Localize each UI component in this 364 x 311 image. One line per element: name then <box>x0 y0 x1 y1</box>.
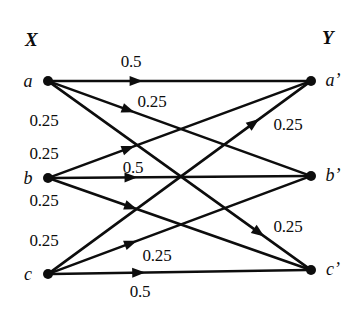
graph-node-cp[interactable] <box>306 265 316 275</box>
edge-arrowhead-icon <box>121 146 135 155</box>
edge-weight-label: 0.25 <box>30 145 59 162</box>
edge-arrowhead-icon <box>132 268 145 278</box>
edge-arrowhead-icon <box>123 200 137 209</box>
edge-weight-label: 0.25 <box>30 112 59 129</box>
edge-weight-label: 0.5 <box>130 283 151 300</box>
graph-edge <box>52 76 307 86</box>
edge-arrowhead-icon <box>130 76 143 86</box>
graph-node-bp[interactable] <box>306 171 316 181</box>
node-label-cp: c’ <box>326 260 340 278</box>
graph-node-a[interactable] <box>43 76 53 86</box>
edge-weight-label: 0.25 <box>274 218 303 235</box>
edge-weight-label: 0.5 <box>121 53 142 70</box>
node-label-c: c <box>24 265 32 283</box>
set-label-y: Y <box>322 28 334 47</box>
bipartite-graph-figure: X Y abca’b’c’ 0.50.250.250.250.50.250.25… <box>0 0 364 311</box>
edge-weight-label: 0.25 <box>30 192 59 209</box>
node-label-bp: b’ <box>326 166 341 184</box>
edge-arrowhead-icon <box>251 225 264 237</box>
edge-weight-label: 0.25 <box>30 232 59 249</box>
edge-layer <box>51 76 308 278</box>
graph-edge <box>52 268 307 278</box>
set-label-x: X <box>25 30 38 49</box>
graph-node-ap[interactable] <box>306 76 316 86</box>
edge-weight-label: 0.5 <box>123 159 144 176</box>
edge-weight-label: 0.25 <box>274 116 303 133</box>
node-label-a: a <box>24 72 33 90</box>
graph-node-c[interactable] <box>43 269 53 279</box>
edge-arrowhead-icon <box>123 241 137 250</box>
edge-line <box>52 270 307 274</box>
edge-arrowhead-icon <box>121 103 135 112</box>
node-label-ap: a’ <box>326 71 341 89</box>
edge-weight-label: 0.25 <box>138 93 167 110</box>
edge-weight-label: 0.25 <box>143 247 172 264</box>
graph-node-b[interactable] <box>43 173 53 183</box>
node-label-b: b <box>24 169 33 187</box>
